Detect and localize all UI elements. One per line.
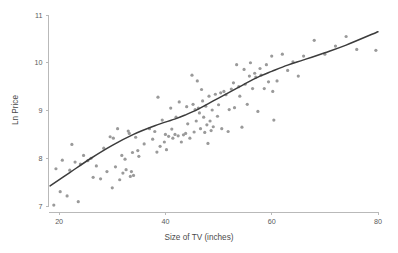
plot-background xyxy=(0,0,398,253)
data-point xyxy=(156,96,159,99)
scatter-plot: 7891011 20406080 Size of TV (inches) Ln … xyxy=(0,0,398,253)
data-point xyxy=(118,178,121,181)
data-point xyxy=(190,74,193,77)
data-point xyxy=(207,95,210,98)
y-tick-label: 10 xyxy=(35,58,43,67)
data-point xyxy=(200,88,203,91)
data-point xyxy=(272,118,275,121)
data-point xyxy=(82,154,85,157)
data-point xyxy=(232,81,235,84)
data-point xyxy=(281,53,284,56)
data-point xyxy=(228,108,231,111)
data-point xyxy=(199,127,202,130)
data-point xyxy=(271,90,274,93)
y-tick-label: 7 xyxy=(39,202,43,211)
data-point xyxy=(235,63,238,66)
data-point xyxy=(137,155,140,158)
data-point xyxy=(186,122,189,125)
y-tick-label: 9 xyxy=(39,106,43,115)
data-point xyxy=(95,164,98,167)
data-point xyxy=(77,200,80,203)
data-point xyxy=(112,137,115,140)
data-point xyxy=(345,35,348,38)
data-point xyxy=(220,127,223,130)
data-point xyxy=(124,168,127,171)
data-point xyxy=(302,54,305,57)
data-point xyxy=(116,127,119,130)
chart-figure: 7891011 20406080 Size of TV (inches) Ln … xyxy=(0,0,398,253)
data-point xyxy=(143,142,146,145)
data-point xyxy=(193,130,196,133)
x-tick-label: 60 xyxy=(268,217,276,226)
y-tick-label: 8 xyxy=(39,154,43,163)
data-point xyxy=(111,186,114,189)
data-point xyxy=(134,136,137,139)
data-point xyxy=(249,61,252,64)
data-point xyxy=(238,95,241,98)
data-point xyxy=(131,151,134,154)
data-point xyxy=(191,103,194,106)
data-point xyxy=(99,177,102,180)
data-point xyxy=(109,135,112,138)
data-point xyxy=(256,110,259,113)
data-point xyxy=(233,106,236,109)
data-point xyxy=(61,159,64,162)
data-point xyxy=(313,39,316,42)
data-point xyxy=(251,87,254,90)
data-point xyxy=(205,123,208,126)
data-point xyxy=(180,140,183,143)
data-point xyxy=(202,116,205,119)
data-point xyxy=(159,145,162,148)
data-point xyxy=(151,138,154,141)
x-tick-label: 20 xyxy=(55,217,63,226)
data-point xyxy=(196,79,199,82)
data-point xyxy=(161,118,164,121)
data-point xyxy=(206,142,209,145)
data-point xyxy=(227,130,230,133)
data-point xyxy=(130,170,133,173)
data-point xyxy=(121,171,124,174)
data-point xyxy=(132,174,135,177)
data-point xyxy=(275,79,278,82)
data-point xyxy=(52,203,55,206)
data-point xyxy=(212,125,215,128)
data-point xyxy=(169,107,172,110)
data-point xyxy=(70,143,73,146)
x-tick-label: 40 xyxy=(161,217,169,226)
data-point xyxy=(136,149,139,152)
data-point xyxy=(170,128,173,131)
data-point xyxy=(198,111,201,114)
data-point xyxy=(165,148,168,151)
data-point xyxy=(265,63,268,66)
data-point xyxy=(164,133,167,136)
y-tick-label: 11 xyxy=(35,11,42,20)
data-point xyxy=(286,69,289,72)
data-point xyxy=(214,93,217,96)
data-point xyxy=(267,80,270,83)
data-point xyxy=(92,176,95,179)
data-point xyxy=(240,126,243,129)
data-point xyxy=(185,105,188,108)
data-point xyxy=(163,140,166,143)
data-point xyxy=(171,137,174,140)
data-point xyxy=(211,108,214,111)
data-point xyxy=(242,68,245,71)
data-point xyxy=(246,103,249,106)
data-point xyxy=(184,132,187,135)
data-point xyxy=(210,129,213,132)
data-point xyxy=(253,72,256,75)
data-point xyxy=(208,119,211,122)
data-point xyxy=(153,130,156,133)
data-point xyxy=(123,158,126,161)
data-point xyxy=(105,170,108,173)
x-tick-label: 80 xyxy=(374,217,382,226)
data-point xyxy=(216,115,219,118)
data-point xyxy=(178,100,181,103)
data-point xyxy=(258,67,261,70)
data-point xyxy=(59,190,62,193)
x-axis-title: Size of TV (inches) xyxy=(164,233,233,242)
data-point xyxy=(167,135,170,138)
data-point xyxy=(129,175,132,178)
data-point xyxy=(128,132,131,135)
data-point xyxy=(73,160,76,163)
